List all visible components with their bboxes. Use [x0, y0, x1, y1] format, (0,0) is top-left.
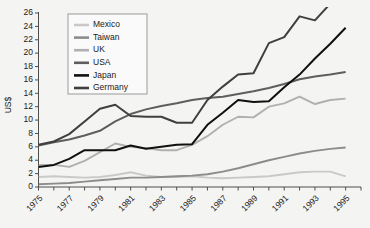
legend-label-mexico: Mexico	[93, 19, 120, 29]
x-tick-label: 1987	[208, 193, 229, 214]
x-tick-label: 1977	[55, 193, 76, 214]
x-tick-label: 1983	[147, 193, 168, 214]
x-tick-label: 1995	[331, 193, 352, 214]
y-tick-label: 16	[24, 74, 34, 84]
chart-container: 02468101214161820222426 1975197719791981…	[0, 0, 370, 228]
x-tick-label: 1985	[178, 193, 199, 214]
y-tick-label: 14	[24, 88, 34, 98]
legend-label-uk: UK	[93, 44, 105, 54]
y-tick-label: 18	[24, 61, 34, 71]
y-tick-label: 26	[24, 7, 34, 17]
x-tick-label: 1991	[270, 193, 291, 214]
y-tick-label: 0	[28, 181, 33, 191]
legend-label-japan: Japan	[93, 70, 116, 80]
y-axis: 02468101214161820222426	[24, 7, 39, 191]
y-tick-label: 2	[28, 168, 33, 178]
y-tick-label: 10	[24, 114, 34, 124]
x-tick-label: 1979	[85, 193, 106, 214]
x-tick-label: 1975	[24, 193, 45, 214]
y-tick-label: 20	[24, 47, 34, 57]
x-tick-label: 1989	[239, 193, 260, 214]
x-axis: 1975197719791981198319851987198919911993…	[24, 187, 361, 213]
chart-legend: MexicoTaiwanUKUSAJapanGermany	[68, 14, 147, 94]
series-line-taiwan	[39, 148, 346, 185]
y-axis-title: US$	[3, 96, 13, 113]
y-tick-label: 6	[28, 141, 33, 151]
y-tick-label: 22	[24, 34, 34, 44]
y-tick-label: 12	[24, 101, 34, 111]
legend-label-germany: Germany	[93, 82, 129, 92]
y-tick-label: 24	[24, 21, 34, 31]
legend-label-taiwan: Taiwan	[93, 32, 120, 42]
x-tick-label: 1981	[116, 193, 137, 214]
series-line-uk	[39, 97, 346, 167]
legend-label-usa: USA	[93, 57, 111, 67]
x-tick-label: 1993	[300, 193, 321, 214]
y-tick-label: 8	[28, 128, 33, 138]
y-tick-label: 4	[28, 154, 33, 164]
line-chart: 02468101214161820222426 1975197719791981…	[0, 0, 370, 228]
